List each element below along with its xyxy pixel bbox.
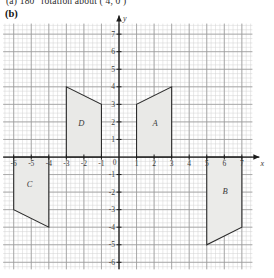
x-tick-label--1: -1 <box>98 159 104 168</box>
x-tick-label--6: -6 <box>11 159 17 168</box>
x-tick-label--4: -4 <box>46 159 52 168</box>
y-tick-label--1: -1 <box>109 170 115 179</box>
x-tick-label-1: 1 <box>135 159 139 168</box>
x-tick-label-7: 7 <box>240 159 244 168</box>
shape-label-d: D <box>77 118 85 128</box>
x-tick-label-0: 0 <box>113 158 117 167</box>
x-axis-label: x <box>259 159 264 168</box>
coordinate-grid-plot: ABCDxy-6-5-4-3-2-101234567-6-5-4-3-2-112… <box>0 0 274 278</box>
y-tick-label--3: -3 <box>109 205 115 214</box>
x-tick-label--5: -5 <box>28 159 34 168</box>
x-axis-arrowhead <box>253 154 259 160</box>
y-tick-label--6: -6 <box>109 258 115 267</box>
grid-svg: ABCDxy-6-5-4-3-2-101234567-6-5-4-3-2-112… <box>0 0 274 278</box>
x-tick-label-6: 6 <box>222 159 226 168</box>
shape-label-b: B <box>223 186 228 196</box>
x-tick-label-5: 5 <box>205 159 209 168</box>
y-tick-label-2: 2 <box>111 118 115 127</box>
y-tick-label-5: 5 <box>111 65 115 74</box>
x-tick-label--3: -3 <box>63 159 69 168</box>
figure-panel: (a) 180° rotation about ( 4, 0 ) (b) ABC… <box>0 0 274 278</box>
y-axis-label: y <box>122 14 127 23</box>
x-tick-label--2: -2 <box>81 159 87 168</box>
y-tick-label--4: -4 <box>109 223 115 232</box>
y-tick-label-6: 6 <box>111 47 115 56</box>
x-tick-label-2: 2 <box>152 159 156 168</box>
shape-label-c: C <box>27 179 33 189</box>
x-tick-label-4: 4 <box>187 159 191 168</box>
x-tick-label-3: 3 <box>170 159 174 168</box>
y-tick-label-1: 1 <box>111 135 115 144</box>
y-tick-label-7: 7 <box>111 30 115 39</box>
y-tick-label-3: 3 <box>111 100 115 109</box>
y-tick-label--5: -5 <box>109 240 115 249</box>
y-axis-arrowhead <box>116 16 122 22</box>
y-tick-label-4: 4 <box>111 82 115 91</box>
y-tick-label--2: -2 <box>109 188 115 197</box>
shape-label-a: A <box>151 118 158 128</box>
